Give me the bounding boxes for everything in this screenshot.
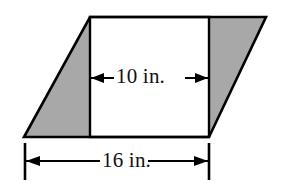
base-width-label: 16 in. — [102, 150, 151, 171]
geometry-figure: 10 in. 16 in. — [0, 0, 286, 186]
inner-width-label: 10 in. — [116, 66, 165, 87]
base-width-right-arrowhead — [194, 156, 208, 166]
base-width-left-arrowhead — [26, 156, 40, 166]
